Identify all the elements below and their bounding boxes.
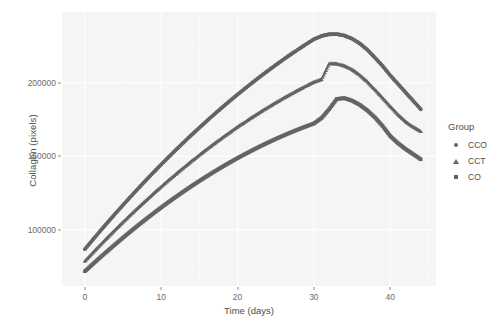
data-point	[419, 107, 423, 111]
legend-item-label: CCT	[468, 156, 485, 166]
legend-item-label: CCO	[468, 140, 487, 150]
series-co	[83, 96, 422, 273]
y-tick-mark	[58, 230, 61, 231]
circle-marker-icon	[448, 137, 464, 153]
x-tick-mark	[237, 287, 238, 290]
x-tick-label: 10	[156, 292, 165, 302]
legend-item-cct[interactable]: CCT	[448, 153, 487, 169]
y-tick-label: 200000	[10, 78, 56, 88]
legend: Group CCOCCTCO	[448, 121, 487, 185]
triangle-shape	[453, 159, 459, 164]
x-tick-mark	[84, 287, 85, 290]
x-tick-mark	[313, 287, 314, 290]
plot-panel	[62, 12, 436, 286]
series-cct	[83, 61, 423, 262]
square-shape	[454, 175, 458, 179]
x-tick-mark	[390, 287, 391, 290]
legend-item-label: CO	[468, 172, 481, 182]
y-tick-label: 100000	[10, 225, 56, 235]
x-axis-title: Time (days)	[62, 305, 436, 316]
circle-shape	[454, 143, 458, 147]
x-tick-label: 40	[385, 292, 394, 302]
x-tick-label: 0	[83, 292, 88, 302]
y-tick-label: 150000	[10, 151, 56, 161]
y-tick-mark	[58, 82, 61, 83]
legend-item-cco[interactable]: CCO	[448, 137, 487, 153]
chart-figure: Collagen (pixels) Time (days) 1000001500…	[0, 0, 502, 330]
x-tick-label: 20	[233, 292, 242, 302]
legend-item-co[interactable]: CO	[448, 169, 487, 185]
y-tick-mark	[58, 156, 61, 157]
data-point	[419, 158, 423, 162]
legend-title: Group	[448, 121, 487, 132]
square-marker-icon	[448, 169, 464, 185]
triangle-marker-icon	[448, 153, 464, 169]
plot-series-svg	[62, 12, 436, 286]
x-tick-label: 30	[309, 292, 318, 302]
series-cco	[83, 32, 423, 251]
legend-items: CCOCCTCO	[448, 137, 487, 185]
x-tick-mark	[161, 287, 162, 290]
